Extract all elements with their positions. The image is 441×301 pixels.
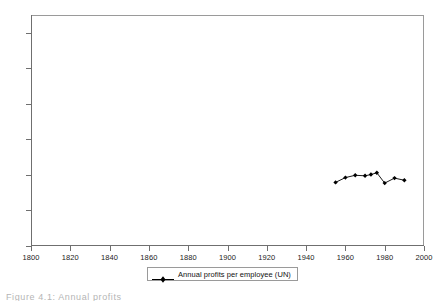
- series-data-point: [363, 174, 367, 178]
- x-axis-tick-label: 1860: [140, 253, 157, 262]
- x-axis-tick: [188, 246, 189, 251]
- x-axis-tick-label: 1800: [22, 253, 39, 262]
- series-data-point: [333, 180, 337, 184]
- x-axis-tick: [424, 246, 425, 251]
- x-axis-tick-label: 1980: [376, 253, 393, 262]
- x-axis-tick: [70, 246, 71, 251]
- series-layer: [31, 15, 424, 246]
- x-axis-tick-label: 1840: [101, 253, 118, 262]
- x-axis-tick: [31, 246, 32, 251]
- x-axis-tick-label: 1880: [180, 253, 197, 262]
- series-data-point: [392, 176, 396, 180]
- x-axis-tick-label: 1900: [219, 253, 236, 262]
- x-axis-tick: [267, 246, 268, 251]
- series-data-point: [402, 178, 406, 182]
- x-axis-tick-label: 1940: [298, 253, 315, 262]
- series-data-point: [353, 173, 357, 177]
- legend-label: Annual profits per employee (UN): [178, 270, 291, 279]
- chart-figure: 020406080100120 180018201840186018801900…: [0, 0, 441, 301]
- x-axis-tick: [385, 246, 386, 251]
- x-axis-tick: [149, 246, 150, 251]
- x-axis-tick: [110, 246, 111, 251]
- x-axis-tick-label: 1960: [337, 253, 354, 262]
- x-axis-tick-label: 1820: [62, 253, 79, 262]
- series-data-point: [343, 175, 347, 179]
- x-axis-tick-label: 1920: [258, 253, 275, 262]
- x-axis-tick: [306, 246, 307, 251]
- legend-marker-icon: [152, 270, 174, 279]
- x-axis-tick: [345, 246, 346, 251]
- series-data-point: [369, 172, 373, 176]
- chart-legend: Annual profits per employee (UN): [147, 267, 298, 281]
- caption-fragment: Figure 4.1: Annual profits: [6, 292, 122, 301]
- x-axis-tick: [228, 246, 229, 251]
- x-axis-tick-label: 2000: [415, 253, 432, 262]
